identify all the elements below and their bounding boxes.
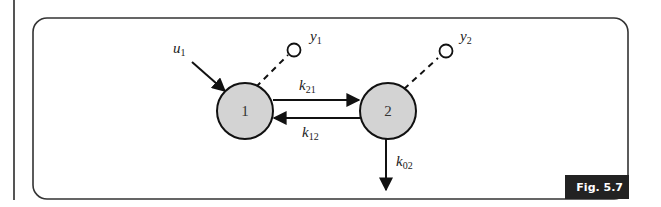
figure-number-badge: Fig. 5.7 <box>565 175 629 199</box>
output-label-y1: y1 <box>308 28 322 46</box>
output-label-y2: y2 <box>458 28 472 46</box>
output-node-y2 <box>440 45 453 58</box>
compartment-diagram: u1 y1 y2 k21 k12 k02 1 2 <box>0 0 661 207</box>
output-node-y1 <box>288 44 301 57</box>
figure-frame <box>33 18 628 199</box>
output-link-y1 <box>256 55 288 87</box>
input-label-u1: u1 <box>173 40 186 58</box>
compartment-2-label: 2 <box>384 103 392 119</box>
rate-label-k02: k02 <box>396 153 413 171</box>
rate-label-k21: k21 <box>299 77 316 95</box>
rate-label-k12: k12 <box>302 124 319 142</box>
output-link-y2 <box>404 58 438 89</box>
input-arrow-u1 <box>192 62 225 91</box>
compartment-1-label: 1 <box>241 103 249 119</box>
